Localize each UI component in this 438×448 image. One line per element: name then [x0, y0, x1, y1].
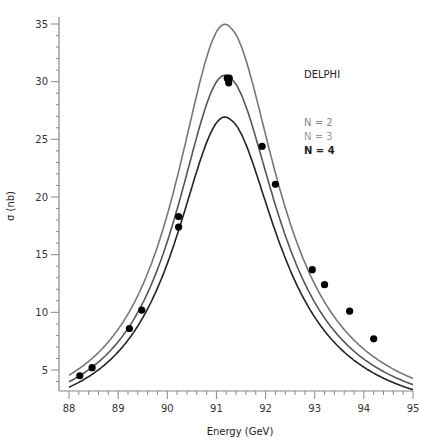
data-point: [370, 335, 377, 342]
data-point: [272, 181, 279, 188]
data-point: [309, 266, 316, 273]
curves: [69, 24, 413, 389]
data-point: [175, 213, 182, 220]
x-tick-label: 88: [63, 403, 76, 414]
x-tick-label: 91: [210, 403, 223, 414]
x-tick-label: 92: [259, 403, 272, 414]
y-tick-label: 20: [35, 192, 48, 203]
data-point: [226, 75, 233, 82]
y-tick-label: 35: [35, 19, 48, 30]
x-tick-label: 95: [407, 403, 420, 414]
data-point: [346, 308, 353, 315]
y-axis: 5101520253035: [35, 17, 59, 391]
curve-n3: [69, 75, 413, 384]
data-point: [259, 143, 266, 150]
y-tick-label: 25: [35, 134, 48, 145]
y-tick-label: 15: [35, 249, 48, 260]
y-tick-label: 5: [42, 365, 48, 376]
x-tick-label: 93: [308, 403, 321, 414]
data-point: [175, 223, 182, 230]
x-axis-title: Energy (GeV): [207, 426, 274, 437]
x-tick-label: 90: [161, 403, 174, 414]
legend: N = 2N = 3N = 4: [304, 117, 335, 156]
legend-item: N = 3: [304, 131, 333, 142]
y-tick-label: 30: [35, 76, 48, 87]
data-point: [88, 364, 95, 371]
x-axis: 8889909192939495: [59, 391, 419, 414]
data-point: [138, 306, 145, 313]
data-point: [76, 372, 83, 379]
y-tick-label: 10: [35, 307, 48, 318]
curve-n2: [69, 24, 413, 378]
x-tick-label: 89: [112, 403, 125, 414]
cross-section-chart: 5101520253035 8889909192939495 σ (nb) En…: [0, 0, 438, 448]
legend-item: N = 2: [304, 117, 333, 128]
x-tick-label: 94: [357, 403, 370, 414]
legend-item: N = 4: [304, 145, 335, 156]
y-axis-title: σ (nb): [5, 191, 16, 221]
experiment-label: DELPHI: [304, 69, 340, 80]
data-point: [321, 281, 328, 288]
data-point: [126, 325, 133, 332]
curve-n4: [69, 117, 413, 390]
